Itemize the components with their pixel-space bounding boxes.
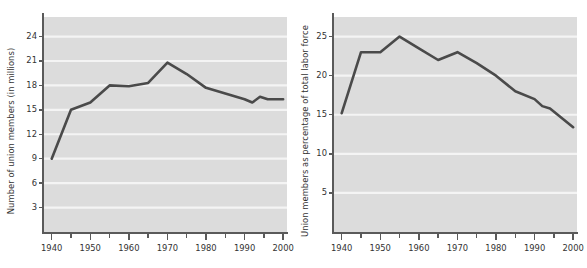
x-tick-mark-major — [282, 234, 283, 240]
plot-area-left — [44, 17, 287, 232]
plot-area-right — [334, 17, 577, 232]
y-axis-title-right: Union members as percentage of total lab… — [296, 0, 314, 268]
x-tick-mark-minor — [225, 234, 226, 238]
x-tick-label: 1980 — [192, 243, 220, 253]
y-tick-label: 18 — [26, 80, 37, 90]
y-tick-label: 10 — [316, 148, 327, 158]
y-tick-label: 3 — [32, 202, 37, 212]
y-tick-mark — [329, 36, 334, 37]
x-tick-mark-minor — [263, 234, 264, 238]
x-tick-mark-major — [205, 234, 206, 240]
x-axis-line-right — [332, 232, 578, 234]
y-axis-title-left: Number of union members (in millions) — [2, 0, 20, 268]
y-tick-mark — [39, 109, 44, 110]
y-tick-mark — [329, 75, 334, 76]
y-tick-mark — [39, 36, 44, 37]
x-tick-mark-major — [341, 234, 342, 240]
y-tick-label: 12 — [26, 129, 37, 139]
x-tick-mark-minor — [437, 234, 438, 238]
x-tick-label: 1960 — [115, 243, 143, 253]
x-tick-mark-major — [418, 234, 419, 240]
x-tick-mark-major — [380, 234, 381, 240]
x-tick-mark-major — [534, 234, 535, 240]
x-tick-label: 1980 — [482, 243, 510, 253]
plot-svg-right — [334, 17, 577, 232]
x-tick-label: 1940 — [328, 243, 356, 253]
x-tick-mark-minor — [109, 234, 110, 238]
y-tick-mark — [329, 153, 334, 154]
x-tick-label: 1970 — [153, 243, 181, 253]
x-tick-mark-minor — [553, 234, 554, 238]
x-tick-label: 1990 — [521, 243, 549, 253]
x-tick-mark-minor — [360, 234, 361, 238]
y-tick-label: 24 — [26, 31, 37, 41]
x-tick-mark-major — [495, 234, 496, 240]
x-tick-mark-major — [51, 234, 52, 240]
x-tick-label: 1960 — [405, 243, 433, 253]
x-tick-mark-major — [572, 234, 573, 240]
y-tick-label: 20 — [316, 70, 327, 80]
x-axis-line-left — [42, 232, 288, 234]
x-tick-mark-major — [457, 234, 458, 240]
y-tick-label: 9 — [32, 153, 37, 163]
y-tick-label: 5 — [322, 187, 327, 197]
y-tick-label: 15 — [26, 104, 37, 114]
y-tick-mark — [39, 158, 44, 159]
x-tick-label: 1990 — [231, 243, 259, 253]
y-axis-title-right-text: Union members as percentage of total lab… — [300, 25, 310, 237]
x-tick-mark-minor — [476, 234, 477, 238]
x-tick-mark-major — [128, 234, 129, 240]
x-tick-mark-minor — [147, 234, 148, 238]
x-tick-mark-major — [167, 234, 168, 240]
y-axis-title-left-text: Number of union members (in millions) — [6, 48, 16, 214]
chart-panel-union-members-percent: Union members as percentage of total lab… — [294, 0, 587, 268]
y-tick-mark — [39, 134, 44, 135]
y-tick-label: 21 — [26, 55, 37, 65]
y-tick-mark — [329, 192, 334, 193]
plot-svg-left — [44, 17, 287, 232]
y-tick-label: 6 — [32, 178, 37, 188]
chart-panel-union-members-count: Number of union members (in millions) 36… — [0, 0, 294, 268]
x-tick-mark-minor — [70, 234, 71, 238]
y-tick-mark — [39, 207, 44, 208]
x-tick-label: 2000 — [559, 243, 587, 253]
y-tick-mark — [329, 114, 334, 115]
x-tick-label: 1940 — [38, 243, 66, 253]
x-tick-label: 2000 — [269, 243, 297, 253]
y-tick-label: 15 — [316, 109, 327, 119]
y-tick-mark — [39, 85, 44, 86]
y-tick-label: 25 — [316, 31, 327, 41]
x-tick-mark-major — [90, 234, 91, 240]
x-tick-mark-major — [244, 234, 245, 240]
y-tick-mark — [39, 182, 44, 183]
x-tick-label: 1970 — [443, 243, 471, 253]
x-tick-mark-minor — [399, 234, 400, 238]
x-tick-mark-minor — [186, 234, 187, 238]
x-tick-mark-minor — [515, 234, 516, 238]
two-panel-line-chart-figure: Number of union members (in millions) 36… — [0, 0, 587, 268]
x-tick-label: 1950 — [76, 243, 104, 253]
y-tick-mark — [39, 60, 44, 61]
x-tick-label: 1950 — [366, 243, 394, 253]
